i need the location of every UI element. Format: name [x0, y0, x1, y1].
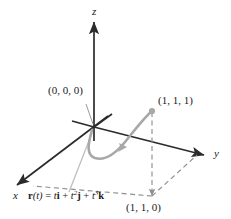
x-axis-positive-stub [94, 114, 112, 127]
y-axis [94, 127, 204, 155]
label-leader-lines [86, 104, 93, 124]
dashed-base-edge-to-y-axis [152, 155, 197, 196]
space-curve-figure: z y x (0, 0, 0) (1, 1, 1) (1, 1, 0) r(t)… [0, 0, 231, 219]
curve-endpoint-label: (1, 1, 1) [158, 95, 193, 106]
y-axis-label: y [214, 148, 219, 159]
equation-term2-basis-j: j [77, 190, 81, 201]
equation-plus-2: + [83, 190, 89, 201]
equation-term3-basis-k: k [98, 190, 104, 201]
x-axis-label: x [13, 190, 18, 201]
origin-point-label: (0, 0, 0) [48, 85, 83, 96]
equation-lhs-argument: (t) [33, 190, 43, 201]
curve-endpoint-dot [149, 108, 155, 114]
z-axis-label: z [92, 6, 96, 17]
equation-equals-sign: = [45, 190, 51, 201]
equation-plus-1: + [62, 190, 68, 201]
curve-path [89, 112, 151, 159]
vector-equation: r(t) = ti + t2j + t3k [28, 191, 104, 202]
y-axis-negative-stub [72, 121, 94, 127]
figure-canvas [0, 0, 231, 219]
equation-term1-basis-i: i [57, 190, 60, 201]
projection-point-label: (1, 1, 0) [126, 202, 161, 213]
space-curve-group [69, 108, 155, 192]
origin-label-leader [86, 104, 93, 124]
